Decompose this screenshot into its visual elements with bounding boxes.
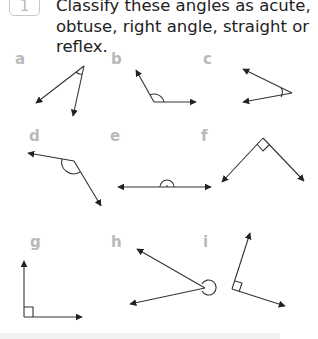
footer-strip: [0, 333, 280, 339]
angle-b-obtuse-icon: [136, 70, 196, 102]
angle-a-acute-icon: [36, 66, 84, 116]
angle-c-acute-icon: [243, 69, 292, 102]
angle-g-right-icon: [24, 261, 82, 317]
angle-h-reflex-icon: [130, 249, 216, 304]
angle-f-right-icon: [222, 138, 304, 182]
angle-e-straight-icon: [118, 180, 211, 187]
angle-i-right-icon: [232, 233, 285, 306]
angle-d-obtuse-icon: [28, 153, 101, 206]
angles-diagram: [0, 0, 318, 339]
